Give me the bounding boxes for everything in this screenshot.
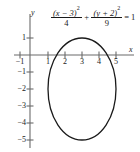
x-tick-label-2: 2	[59, 57, 71, 66]
equation-plus-operator: +	[84, 13, 89, 22]
y-tick-label--2: −2	[10, 84, 26, 93]
y-tick-label--4: −4	[10, 118, 26, 127]
ellipse-figure: (x − 3)2 4 + (y + 2)2 9 = 1 x y −1 1 2 3…	[0, 0, 140, 152]
equation-second-numerator: (y + 2)2	[91, 7, 122, 19]
x-axis-label: x	[129, 45, 133, 54]
equation-first-fraction: (x − 3)2 4	[51, 7, 82, 28]
equation-right-hand-side: = 1	[124, 13, 135, 22]
equation-first-denominator: 4	[64, 18, 68, 27]
equation-second-fraction: (y + 2)2 9	[91, 7, 122, 28]
y-axis-label: y	[31, 8, 35, 17]
y-tick-label--5: −5	[10, 135, 26, 144]
ellipse-equation: (x − 3)2 4 + (y + 2)2 9 = 1	[50, 4, 140, 30]
x-tick-label--1: −1	[12, 57, 28, 66]
x-tick-label-5: 5	[110, 57, 122, 66]
x-tick-label-4: 4	[93, 57, 105, 66]
equation-second-denominator: 9	[105, 18, 109, 27]
x-tick-label-3: 3	[76, 57, 88, 66]
y-tick-label--3: −3	[10, 101, 26, 110]
y-tick-label-1: 1	[14, 33, 26, 42]
y-tick-label--1: −1	[10, 67, 26, 76]
equation-first-numerator: (x − 3)2	[51, 7, 82, 19]
x-tick-label-1: 1	[42, 57, 54, 66]
